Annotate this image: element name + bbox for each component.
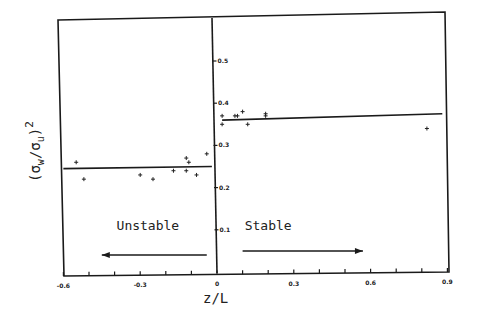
- data-point: [171, 169, 175, 173]
- annotations: UnstableStable: [102, 218, 363, 258]
- data-point: [425, 127, 429, 131]
- arrow-head-icon: [355, 248, 363, 254]
- fit-lines: [63, 114, 442, 169]
- y-tick-label: 0.3: [218, 141, 229, 148]
- data-point: [220, 122, 224, 126]
- svg-text:(σw/σu)2: (σw/σu)2: [23, 121, 46, 182]
- fit-line: [63, 167, 211, 169]
- data-point: [151, 177, 155, 181]
- data-point: [220, 114, 224, 118]
- x-axis-title: z/L: [203, 290, 228, 306]
- y-axis-title: (σw/σu)2: [23, 121, 46, 182]
- x-ticks: -0.6-0.300.30.60.9: [57, 268, 453, 289]
- x-tick-label: 0: [215, 280, 219, 287]
- x-tick-label: -0.6: [57, 282, 70, 289]
- x-tick-label: 0.3: [288, 280, 299, 287]
- data-point: [264, 112, 268, 116]
- fit-line: [222, 114, 442, 120]
- unstable-label: Unstable: [117, 218, 180, 233]
- data-point: [138, 173, 142, 177]
- data-point: [74, 160, 78, 164]
- data-point: [246, 122, 250, 126]
- x-tick-label: -0.3: [134, 281, 147, 288]
- arrow-head-icon: [102, 252, 110, 258]
- data-point: [184, 169, 188, 173]
- y-tick-label: 0.2: [219, 184, 230, 191]
- data-point: [82, 177, 86, 181]
- data-points: [74, 110, 429, 182]
- data-point: [195, 173, 199, 177]
- stable-label: Stable: [245, 218, 292, 233]
- data-point: [187, 160, 191, 164]
- x-tick-label: 0.6: [365, 279, 376, 286]
- data-point: [205, 152, 209, 156]
- data-point: [241, 110, 245, 114]
- data-point: [235, 114, 239, 118]
- y-tick-label: 0.5: [217, 57, 228, 64]
- x-tick-label: 0.9: [442, 278, 453, 285]
- y-tick-label: 0.4: [218, 99, 229, 106]
- plot-frame: [58, 12, 449, 276]
- chart: 0.10.20.30.40.5 -0.6-0.300.30.60.9 Unsta…: [0, 0, 478, 323]
- y-tick-label: 0.1: [219, 226, 230, 233]
- data-point: [184, 156, 188, 160]
